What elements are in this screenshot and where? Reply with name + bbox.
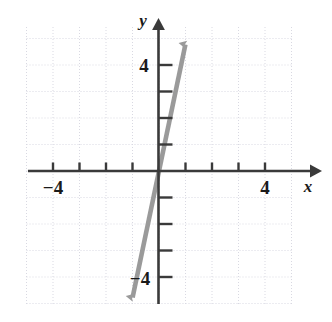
y-tick-label-pos-4: 4 [139,55,149,76]
x-tick-label-neg-4: −4 [43,177,64,198]
x-axis-label: x [303,177,313,196]
x-axis [28,165,322,178]
x-tick-label-pos-4: 4 [260,177,270,198]
y-axis-label: y [137,11,147,30]
y-tick-label-neg-4: −4 [130,268,151,289]
graph-figure: −4 4 4 −4 x y [0,0,332,322]
coordinate-plane-svg: −4 4 4 −4 x y [0,0,332,322]
